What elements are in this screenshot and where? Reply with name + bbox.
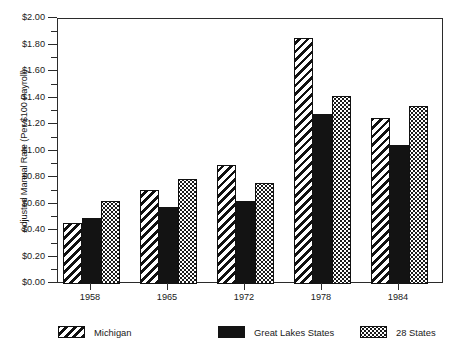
x-tick-label: 1958 [60, 292, 120, 302]
y-tick-label: $0.00 [0, 278, 45, 287]
bar [101, 201, 120, 284]
legend-item: Michigan [58, 325, 132, 339]
legend-item: Great Lakes States [218, 325, 334, 339]
y-tick-label: $1.80 [0, 40, 45, 49]
y-tick-label: $0.80 [0, 172, 45, 181]
y-tick-major [48, 229, 57, 230]
legend-label: 28 States [396, 327, 436, 338]
x-tick [244, 283, 245, 290]
bar [313, 114, 332, 284]
bar [63, 223, 82, 284]
y-tick-major [48, 123, 57, 124]
bar [255, 183, 274, 284]
legend-label: Great Lakes States [254, 327, 334, 338]
y-tick-label: $0.60 [0, 199, 45, 208]
bar [236, 201, 255, 284]
y-tick-major [48, 282, 57, 283]
bar [409, 106, 428, 284]
bar [159, 207, 178, 284]
x-tick-label: 1978 [291, 292, 351, 302]
x-tick [167, 283, 168, 290]
y-tick-major [48, 17, 57, 18]
y-tick-label: $1.20 [0, 119, 45, 128]
y-tick-label: $1.00 [0, 146, 45, 155]
y-tick-major [48, 203, 57, 204]
y-tick-label: $1.40 [0, 93, 45, 102]
bar [390, 145, 409, 284]
legend-label: Michigan [94, 327, 132, 338]
x-tick-label: 1984 [368, 292, 428, 302]
y-tick-major [48, 256, 57, 257]
y-tick-major [48, 44, 57, 45]
bar-chart: Adjusted Manual Rate (Per $100 Payroll) … [0, 0, 457, 348]
chart-legend: MichiganGreat Lakes States28 States [0, 322, 457, 344]
bar [332, 96, 351, 284]
x-tick [90, 283, 91, 290]
y-tick-major [48, 70, 57, 71]
x-tick [321, 283, 322, 290]
x-tick-label: 1965 [137, 292, 197, 302]
legend-swatch-3 [360, 326, 387, 338]
legend-swatch-1 [58, 326, 85, 338]
x-tick [398, 283, 399, 290]
legend-item: 28 States [360, 325, 436, 339]
legend-swatch-2 [218, 326, 245, 338]
bar [140, 190, 159, 284]
y-tick-label: $1.60 [0, 66, 45, 75]
bar [178, 179, 197, 284]
plot-area [57, 18, 443, 283]
y-tick-label: $0.40 [0, 225, 45, 234]
y-tick-label: $0.20 [0, 252, 45, 261]
bar [82, 218, 101, 284]
y-tick-major [48, 97, 57, 98]
bar [371, 118, 390, 284]
y-tick-major [48, 150, 57, 151]
bar [294, 38, 313, 284]
y-tick-major [48, 176, 57, 177]
x-tick-label: 1972 [214, 292, 274, 302]
y-tick-label: $2.00 [0, 13, 45, 22]
bar [217, 165, 236, 284]
